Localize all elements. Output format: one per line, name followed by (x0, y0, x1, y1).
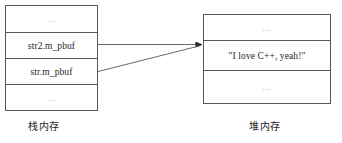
stack-memory-block: … str2.m_pbuf str.m_pbuf … (5, 5, 98, 111)
heap-cell-ellipsis-bottom: … (204, 71, 330, 103)
stack-cell-str-pbuf: str.m_pbuf (6, 59, 97, 85)
stack-cell-ellipsis-bottom: … (6, 85, 97, 110)
memory-diagram: … str2.m_pbuf str.m_pbuf … … "I love C++… (0, 0, 342, 143)
str-pointer-arrow (98, 46, 201, 72)
stack-cell-ellipsis-top: … (6, 6, 97, 33)
heap-cell-ellipsis-top: … (204, 15, 330, 41)
stack-memory-caption: 栈内存 (28, 118, 60, 133)
heap-cell-string-value: "I love C++, yeah!" (204, 41, 330, 71)
heap-memory-block: … "I love C++, yeah!" … (203, 14, 331, 104)
stack-cell-str2-pbuf: str2.m_pbuf (6, 33, 97, 59)
heap-memory-caption: 堆内存 (249, 118, 281, 133)
